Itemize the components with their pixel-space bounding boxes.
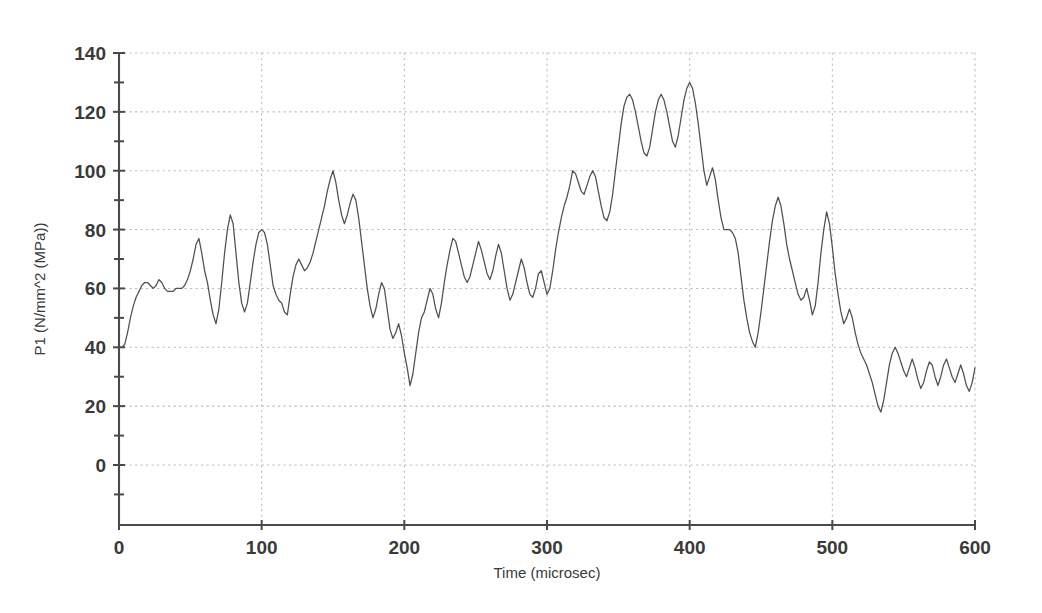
x-axis-tick-label: 500 [816,537,848,558]
y-axis-tick-label: 0 [95,455,106,476]
x-axis-tick-label: 100 [246,537,278,558]
line-chart-plot: 0100200300400500600 020406080100120140 T… [0,0,1042,613]
y-axis-tick-label: 140 [74,43,106,64]
y-axis-tick-label: 120 [74,102,106,123]
y-axis-tick-label: 80 [85,220,106,241]
gridlines [119,53,975,525]
y-axis-tick-label: 100 [74,161,106,182]
x-axis-tick-label: 200 [388,537,420,558]
x-axis-tick-label: 0 [114,537,125,558]
x-axis-tick-label: 400 [674,537,706,558]
x-axis-tick-label: 600 [959,537,991,558]
y-axis-title: P1 (N/mm^2 (MPa)) [31,223,48,356]
axis-ticks [113,53,975,530]
y-tick-labels: 020406080100120140 [74,43,106,476]
x-axis-title: Time (microsec) [494,564,601,581]
y-axis-tick-label: 20 [85,396,106,417]
y-axis-tick-label: 60 [85,278,106,299]
x-axis-tick-label: 300 [531,537,563,558]
x-tick-labels: 0100200300400500600 [114,537,991,558]
chart-container: 0100200300400500600 020406080100120140 T… [0,0,1042,613]
y-axis-tick-label: 40 [85,337,106,358]
